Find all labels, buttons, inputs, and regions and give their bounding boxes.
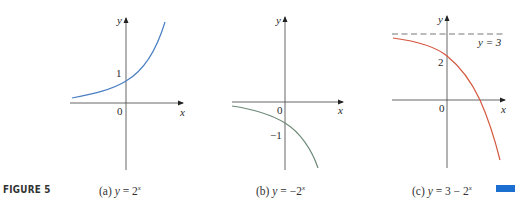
- caption-c-prefix: (c): [412, 185, 425, 197]
- figure-label: FIGURE 5: [3, 184, 51, 195]
- panel-b-graph: y x 0 −1: [232, 14, 343, 170]
- caption-b-rhs: = −2: [280, 185, 302, 197]
- caption-a-prefix: (a): [99, 185, 112, 197]
- panel-c-curve: [393, 38, 500, 160]
- panel-c-tick-2: 2: [438, 56, 444, 68]
- panel-c-y-label: y: [437, 13, 443, 25]
- caption-b-prefix: (b): [256, 185, 269, 197]
- caption-a-exp: x: [138, 184, 141, 192]
- panel-c-tick-0: 0: [439, 102, 445, 114]
- panel-c-x-label: x: [500, 103, 506, 115]
- caption-c-lhs: y: [428, 185, 433, 197]
- caption-c-rhs: = 3 − 2: [436, 185, 469, 197]
- figure-canvas: y x 1 0 y x 0 −1 y x 2 0 y = 3: [0, 0, 531, 213]
- panel-b-tick-0: 0: [277, 104, 283, 116]
- panel-a-graph: y x 1 0: [70, 14, 185, 170]
- panel-a-tick-1: 1: [116, 67, 122, 79]
- panel-a-y-label: y: [116, 14, 122, 26]
- panel-b-x-label: x: [337, 104, 343, 116]
- caption-a-rhs: = 2: [123, 185, 138, 197]
- caption-b: (b) y = −2x: [256, 184, 305, 197]
- panel-c-asymptote-label: y = 3: [477, 36, 502, 48]
- panel-b-tick-neg1: −1: [270, 129, 282, 141]
- panel-a-curve: [72, 22, 165, 98]
- panel-c-graph: y x 2 0 y = 3: [392, 13, 506, 168]
- section-marker-bar: [496, 185, 515, 192]
- caption-b-lhs: y: [272, 185, 277, 197]
- caption-a: (a) y = 2x: [99, 184, 141, 197]
- caption-c-exp: x: [469, 184, 472, 192]
- caption-b-exp: x: [302, 184, 305, 192]
- caption-c: (c) y = 3 − 2x: [412, 184, 472, 197]
- panel-a-tick-0: 0: [117, 105, 123, 117]
- caption-a-lhs: y: [115, 185, 120, 197]
- panel-b-y-label: y: [275, 14, 281, 26]
- panel-a-x-label: x: [179, 106, 185, 118]
